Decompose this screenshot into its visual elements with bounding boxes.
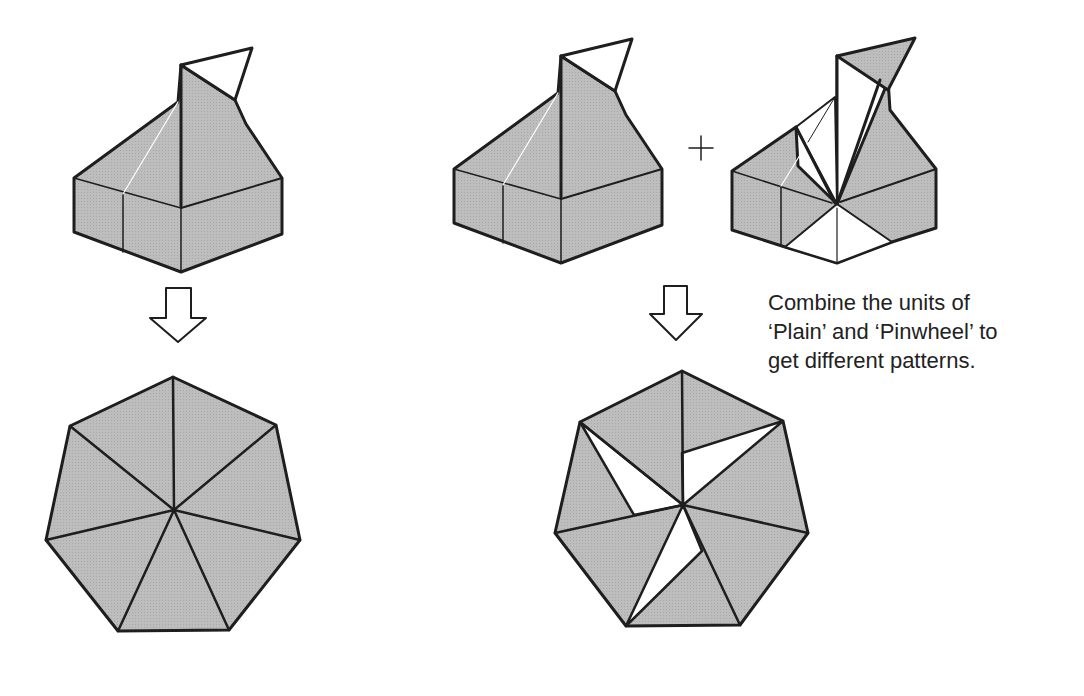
plain-heptagon — [46, 377, 300, 631]
plus-icon — [689, 136, 713, 160]
down-arrow-icon-right — [650, 286, 702, 340]
caption-text: Combine the units of ‘Plain’ and ‘Pinwhe… — [768, 288, 998, 375]
caption-line: Combine the units of — [768, 288, 998, 317]
pinwheel-unit — [732, 38, 936, 263]
down-arrow-icon-left — [150, 288, 206, 342]
plain-unit-middle — [454, 39, 662, 263]
pinwheel-heptagon — [555, 371, 808, 626]
caption-line: ‘Plain’ and ‘Pinwheel’ to — [768, 317, 998, 346]
caption-line: get different patterns. — [768, 346, 998, 375]
plain-unit-left — [74, 48, 282, 272]
